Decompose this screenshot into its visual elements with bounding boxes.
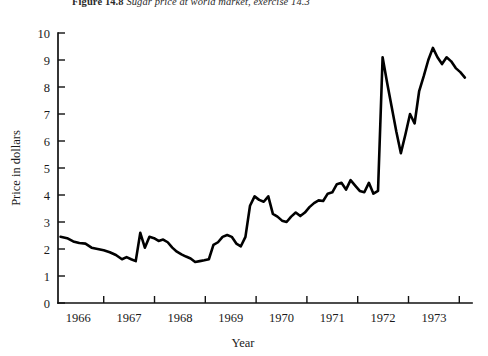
x-axis-group: 19661967196819691970197119721973 Year xyxy=(58,296,472,350)
x-axis-tick-labels: 19661967196819691970197119721973 xyxy=(66,311,447,325)
y-tick-label-2: 2 xyxy=(44,243,50,257)
y-tick-label-4: 4 xyxy=(44,189,51,203)
x-tick-label-1972: 1972 xyxy=(371,311,396,325)
x-tick-label-1967: 1967 xyxy=(117,311,142,325)
x-axis-title: Year xyxy=(231,336,255,350)
y-tick-label-3: 3 xyxy=(44,216,50,230)
figure-root: Figure 14.8 Sugar price at world market,… xyxy=(0,0,488,356)
line-chart-svg: 012345678910 Price in dollars 1966196719… xyxy=(0,0,488,356)
data-series-group xyxy=(61,48,465,262)
y-tick-label-6: 6 xyxy=(44,135,50,149)
y-tick-label-7: 7 xyxy=(44,108,50,122)
x-tick-label-1970: 1970 xyxy=(269,311,294,325)
x-tick-label-1968: 1968 xyxy=(167,311,192,325)
y-axis-title: Price in dollars xyxy=(9,130,23,206)
y-tick-label-0: 0 xyxy=(44,297,50,311)
y-tick-label-1: 1 xyxy=(44,270,50,284)
y-axis-tick-labels: 012345678910 xyxy=(38,27,51,311)
y-tick-label-8: 8 xyxy=(44,81,50,95)
y-axis-group: 012345678910 Price in dollars xyxy=(9,27,65,311)
x-tick-label-1969: 1969 xyxy=(218,311,243,325)
y-axis-ticks xyxy=(58,33,65,303)
x-axis-ticks xyxy=(104,296,460,303)
x-tick-label-1971: 1971 xyxy=(320,311,345,325)
x-tick-label-1973: 1973 xyxy=(421,311,446,325)
y-tick-label-5: 5 xyxy=(44,162,50,176)
chart-plot-area: 012345678910 Price in dollars 1966196719… xyxy=(0,0,488,356)
series-line-sugar-price xyxy=(61,48,465,262)
y-tick-label-10: 10 xyxy=(38,27,51,41)
x-tick-label-1966: 1966 xyxy=(66,311,91,325)
y-tick-label-9: 9 xyxy=(44,54,50,68)
